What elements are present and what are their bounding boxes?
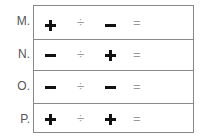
- plus-icon: [45, 20, 56, 31]
- divide-icon: ÷: [77, 79, 84, 94]
- plus-icon: [45, 114, 56, 125]
- divide-icon: ÷: [77, 47, 84, 62]
- row-label-o: O.: [0, 79, 30, 93]
- plus-icon: [105, 50, 116, 61]
- table-row-o: ÷ =: [34, 70, 193, 104]
- minus-icon: [105, 24, 116, 27]
- table-row-n: ÷ =: [34, 39, 193, 71]
- equals-icon: =: [133, 47, 141, 62]
- minus-icon: [45, 86, 56, 89]
- row-label-p: P.: [0, 112, 30, 126]
- equals-icon: =: [133, 111, 141, 126]
- table-row-p: ÷ =: [34, 103, 193, 133]
- divide-icon: ÷: [77, 15, 84, 30]
- minus-icon: [105, 86, 116, 89]
- minus-icon: [45, 54, 56, 57]
- sign-rules-table: ÷ = ÷ = ÷ = ÷ =: [33, 5, 194, 133]
- table-row-m: ÷ =: [34, 6, 193, 40]
- divide-icon: ÷: [77, 111, 84, 126]
- equals-icon: =: [133, 79, 141, 94]
- row-label-m: M.: [0, 14, 30, 28]
- equals-icon: =: [133, 15, 141, 30]
- plus-icon: [105, 114, 116, 125]
- row-label-n: N.: [0, 47, 30, 61]
